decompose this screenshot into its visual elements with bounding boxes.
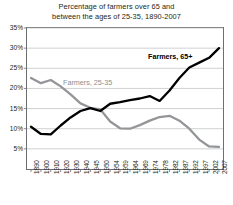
series-line-farmers-65 bbox=[31, 48, 219, 134]
x-tick-label: 1920 bbox=[63, 160, 70, 174]
x-tick-label: 1900 bbox=[43, 160, 50, 174]
chart-svg bbox=[0, 0, 233, 205]
x-tick-label: 1954 bbox=[113, 160, 120, 174]
x-tick-label: 1997 bbox=[202, 160, 209, 174]
y-tick-label: 35% bbox=[0, 24, 23, 31]
x-tick-label: 1982 bbox=[172, 160, 179, 174]
x-tick-label: 1930 bbox=[73, 160, 80, 174]
y-tick-label: 15% bbox=[0, 105, 23, 112]
x-tick-label: 1987 bbox=[182, 160, 189, 174]
series-label-farmers-65-plus: Farmers, 65+ bbox=[148, 52, 193, 61]
x-tick-label: 1950 bbox=[103, 160, 110, 174]
x-tick-label: 1945 bbox=[93, 160, 100, 174]
chart-container: Percentage of farmers over 65 and betwee… bbox=[0, 0, 233, 205]
x-tick-label: 2002 bbox=[212, 160, 219, 174]
x-tick-label: 1974 bbox=[152, 160, 159, 174]
x-tick-label: 1969 bbox=[142, 160, 149, 174]
x-tick-label: 2007 bbox=[221, 160, 228, 174]
series-label-farmers-25-35: Farmers, 25-35 bbox=[63, 78, 112, 87]
x-tick-label: 1910 bbox=[53, 160, 60, 174]
x-tick-label: 1992 bbox=[192, 160, 199, 174]
y-tick-label: 30% bbox=[0, 44, 23, 51]
y-tick-label: 20% bbox=[0, 84, 23, 91]
x-tick-label: 1978 bbox=[162, 160, 169, 174]
y-tick-label: 5% bbox=[0, 145, 23, 152]
y-tick-label: 10% bbox=[0, 125, 23, 132]
x-tick-label: 1959 bbox=[122, 160, 129, 174]
x-tick-label: 1890 bbox=[33, 160, 40, 174]
x-tick-label: 1940 bbox=[83, 160, 90, 174]
y-tick-label: 25% bbox=[0, 64, 23, 71]
x-tick-label: 1964 bbox=[132, 160, 139, 174]
